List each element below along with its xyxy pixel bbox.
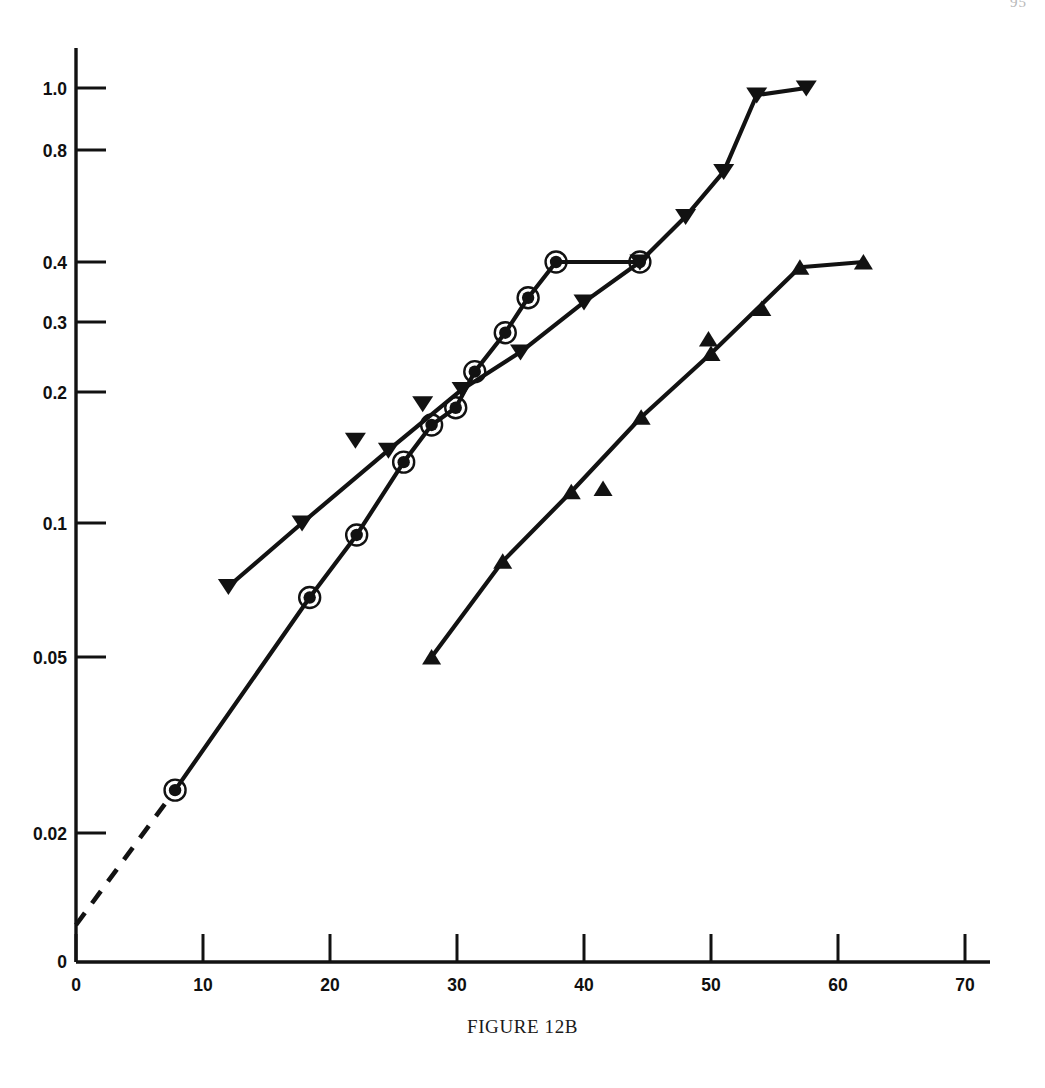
series-up-triangle-series	[422, 254, 873, 665]
series-circled-dot-series	[76, 252, 650, 926]
data-point-circled-dot	[346, 524, 367, 545]
xtick-label-20: 20	[320, 975, 340, 995]
data-point-circled-dot	[393, 452, 414, 473]
series-line	[228, 88, 806, 587]
data-point-unconnected-triangle-up	[699, 331, 718, 347]
chart-plot-area: 1.0 0.8 0.4 0.3 0.2 0.1 0.05 0.02 0 0 10…	[0, 0, 1045, 1010]
xtick-label-40: 40	[574, 975, 594, 995]
y-axis-tick-labels: 1.0 0.8 0.4 0.3 0.2 0.1 0.05 0.02 0	[33, 79, 67, 972]
data-point-unconnected-triangle-down	[412, 396, 433, 412]
ytick-label-0.02: 0.02	[33, 824, 67, 844]
xtick-label-10: 10	[193, 975, 213, 995]
series-line	[175, 262, 640, 790]
data-point-triangle-down	[218, 579, 239, 595]
series-dashed-extrapolation	[76, 790, 175, 925]
xtick-label-70: 70	[955, 975, 975, 995]
data-series-layer	[76, 81, 873, 926]
figure-container: 95	[0, 0, 1045, 1088]
x-axis-ticks	[76, 934, 965, 962]
data-point-circled-dot	[495, 322, 516, 343]
ytick-label-1.0: 1.0	[43, 79, 68, 99]
ytick-label-0.3: 0.3	[43, 313, 68, 333]
data-point-circled-dot	[165, 780, 186, 801]
ytick-label-0: 0	[57, 952, 67, 972]
ytick-label-0.4: 0.4	[43, 253, 68, 273]
ytick-label-0.05: 0.05	[33, 648, 67, 668]
ytick-label-0.2: 0.2	[43, 383, 68, 403]
axis-lines	[76, 48, 990, 962]
data-point-circled-dot	[518, 287, 539, 308]
xtick-label-50: 50	[701, 975, 721, 995]
series-line	[432, 262, 864, 657]
xtick-label-60: 60	[828, 975, 848, 995]
data-point-unconnected-triangle-down	[345, 433, 366, 449]
xtick-label-0: 0	[71, 975, 81, 995]
figure-caption: FIGURE 12B	[0, 1016, 1045, 1038]
x-axis-tick-labels: 0 10 20 30 40 50 60 70	[71, 975, 975, 995]
xtick-label-30: 30	[447, 975, 467, 995]
ytick-label-0.8: 0.8	[43, 141, 68, 161]
y-axis-ticks	[76, 88, 106, 833]
data-point-circled-dot	[299, 587, 320, 608]
data-point-circled-dot	[421, 414, 442, 435]
data-point-unconnected-triangle-up	[594, 481, 613, 497]
ytick-label-0.1: 0.1	[43, 514, 68, 534]
